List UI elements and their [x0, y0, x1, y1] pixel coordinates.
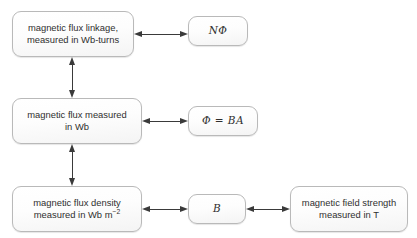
connector-shaft — [72, 151, 73, 179]
node-b-symbol-label: B — [208, 202, 226, 216]
connector-shaft — [253, 209, 283, 210]
arrowhead-left-icon — [142, 206, 150, 212]
diagram-canvas: · · · · · · · · · · · · · · · · · · · · … — [0, 0, 417, 238]
node-flux-density[interactable]: magnetic flux densitymeasured in Wb m−2 — [12, 186, 142, 232]
node-flux-density-exponent: −2 — [112, 208, 120, 215]
scan-edge-artifact: · · · · · · · · · · · · · · · · · · · · — [0, 0, 417, 4]
arrowhead-up-icon — [69, 144, 75, 152]
node-flux-density-label: magnetic flux densitymeasured in Wb m−2 — [28, 197, 126, 222]
connector-shaft — [149, 121, 181, 122]
arrowhead-right-icon — [180, 118, 188, 124]
arrowhead-right-icon — [180, 206, 188, 212]
arrowhead-left-icon — [134, 31, 142, 37]
connector-flux-density-to-b — [142, 199, 188, 219]
node-n-phi-label: NΦ — [204, 24, 233, 38]
connector-magnetic-flux-to-phi-equals-ba — [142, 111, 188, 131]
node-flux-density-line2: measured in Wb m — [34, 209, 113, 220]
node-flux-linkage[interactable]: magnetic flux linkage, measured in Wb-tu… — [12, 11, 134, 57]
connector-magnetic-flux-to-flux-density — [62, 144, 82, 186]
arrowhead-down-icon — [69, 90, 75, 98]
node-flux-linkage-label: magnetic flux linkage, measured in Wb-tu… — [22, 22, 124, 47]
node-phi-equals-ba-label: Φ = BA — [197, 114, 249, 128]
connector-shaft — [149, 209, 181, 210]
arrowhead-down-icon — [69, 178, 75, 186]
arrowhead-right-icon — [180, 31, 188, 37]
node-b-symbol[interactable]: B — [188, 194, 246, 224]
node-magnetic-flux-label: magnetic flux measured in Wb — [22, 109, 132, 134]
node-magnetic-flux[interactable]: magnetic flux measured in Wb — [12, 98, 142, 144]
node-flux-density-line1: magnetic flux density — [33, 197, 121, 208]
arrowhead-left-icon — [142, 118, 150, 124]
arrowhead-up-icon — [69, 57, 75, 65]
connector-flux-linkage-to-n-phi — [134, 24, 188, 44]
node-field-strength[interactable]: magnetic field strength measured in T — [290, 186, 408, 232]
node-phi-equals-ba[interactable]: Φ = BA — [188, 106, 258, 136]
connector-b-to-field-strength — [246, 199, 290, 219]
node-n-phi[interactable]: NΦ — [188, 16, 248, 46]
connector-flux-linkage-to-magnetic-flux — [62, 57, 82, 98]
arrowhead-left-icon — [246, 206, 254, 212]
connector-shaft — [141, 34, 181, 35]
node-field-strength-label: magnetic field strength measured in T — [297, 197, 401, 222]
connector-shaft — [72, 64, 73, 91]
arrowhead-right-icon — [282, 206, 290, 212]
